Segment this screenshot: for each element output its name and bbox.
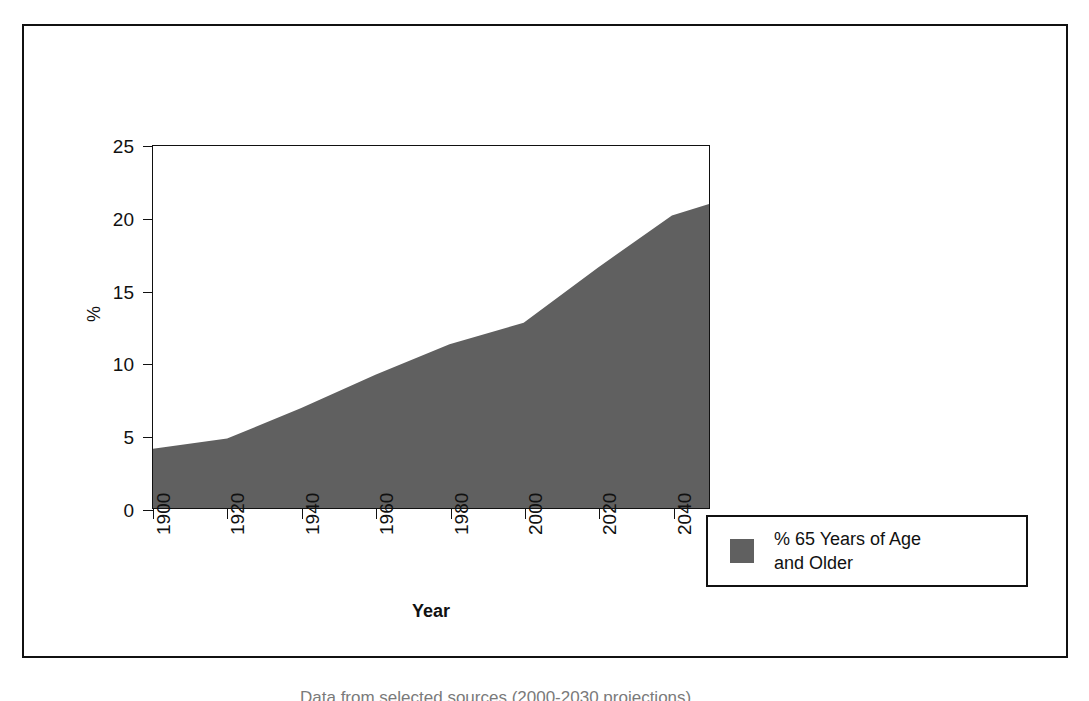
y-tick-label-5: 5 xyxy=(123,427,134,449)
y-tick-label-15: 15 xyxy=(113,282,134,304)
x-tick-1940: 1940 xyxy=(302,508,303,519)
area-polygon xyxy=(153,204,709,508)
x-axis-title: Year xyxy=(152,601,710,622)
x-tick-label-1900: 1900 xyxy=(154,493,174,535)
clipped-caption: Data from selected sources (2000-2030 pr… xyxy=(300,688,1070,701)
y-tick-label-0: 0 xyxy=(123,500,134,522)
x-tick-label-1940: 1940 xyxy=(303,493,323,535)
x-tick-2020: 2020 xyxy=(599,508,600,519)
legend-entry-label-line1: % 65 Years of Age xyxy=(774,529,921,549)
legend-entry-label: % 65 Years of Age and Older xyxy=(774,527,921,575)
x-tick-label-2020: 2020 xyxy=(600,493,620,535)
legend-entry-label-line2: and Older xyxy=(774,553,853,573)
x-tick-1960: 1960 xyxy=(376,508,377,519)
y-tick-0: 0 xyxy=(143,510,153,511)
y-tick-10: 10 xyxy=(143,364,153,365)
legend: % 65 Years of Age and Older xyxy=(706,515,1028,587)
x-tick-label-2000: 2000 xyxy=(526,493,546,535)
x-tick-2040: 2040 xyxy=(674,508,675,519)
area-series-shape xyxy=(153,146,709,508)
y-tick-label-25: 25 xyxy=(113,136,134,158)
y-tick-25: 25 xyxy=(143,146,153,147)
y-tick-20: 20 xyxy=(143,219,153,220)
square-swatch-icon xyxy=(730,539,754,563)
x-tick-label-1960: 1960 xyxy=(377,493,397,535)
x-tick-label-2040: 2040 xyxy=(675,493,695,535)
x-tick-1920: 1920 xyxy=(227,508,228,519)
x-tick-1980: 1980 xyxy=(451,508,452,519)
y-tick-label-20: 20 xyxy=(113,209,134,231)
x-tick-1900: 1900 xyxy=(153,508,154,519)
plot-area: 0 5 10 15 20 25 1900 1920 1940 1960 xyxy=(152,145,710,509)
y-tick-15: 15 xyxy=(143,292,153,293)
y-axis-title: % xyxy=(84,306,104,322)
y-tick-5: 5 xyxy=(143,437,153,438)
figure-frame: 0 5 10 15 20 25 1900 1920 1940 1960 xyxy=(22,24,1068,658)
y-tick-label-10: 10 xyxy=(113,354,134,376)
x-tick-label-1980: 1980 xyxy=(452,493,472,535)
x-tick-label-1920: 1920 xyxy=(228,493,248,535)
x-tick-2000: 2000 xyxy=(525,508,526,519)
